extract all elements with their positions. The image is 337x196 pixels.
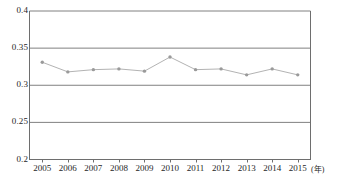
data-point xyxy=(66,70,69,73)
line-chart: 0.40.350.30.250.2 2005200620072008200920… xyxy=(0,0,337,196)
series-line xyxy=(42,57,297,75)
x-axis-labels: 2005200620072008200920102011201220132014… xyxy=(0,163,337,183)
data-point xyxy=(92,68,95,71)
data-point xyxy=(194,68,197,71)
data-point xyxy=(270,67,273,70)
gridlines xyxy=(30,11,311,122)
data-point xyxy=(245,73,248,76)
data-point xyxy=(143,69,146,72)
data-point xyxy=(41,61,44,64)
x-axis-unit-label: (年) xyxy=(311,165,324,175)
data-point xyxy=(296,73,299,76)
data-point xyxy=(117,67,120,70)
series-markers xyxy=(41,55,300,76)
data-point xyxy=(219,67,222,70)
data-point xyxy=(168,55,171,58)
